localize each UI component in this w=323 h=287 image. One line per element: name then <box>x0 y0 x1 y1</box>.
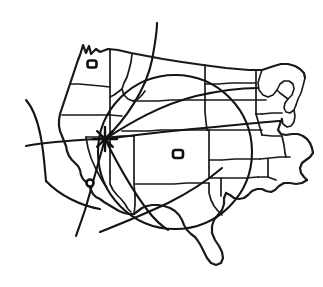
route-line-lower-left <box>100 168 222 232</box>
map-canvas <box>0 0 323 287</box>
route-line-north <box>105 23 157 139</box>
hub-star-marker <box>93 127 117 151</box>
hub-center-dot <box>102 136 109 143</box>
city-marker-northwest <box>88 61 97 68</box>
map-figure: Sketch map of the western and central Un… <box>0 0 323 287</box>
city-marker-southwest <box>87 180 94 187</box>
city-marker-central <box>173 150 183 158</box>
secondary-coverage-arc <box>26 100 100 209</box>
